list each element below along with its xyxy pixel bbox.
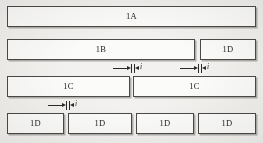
block-label: 1D — [160, 119, 171, 128]
block-1d: 1D — [7, 113, 64, 134]
extension-tick-left — [131, 64, 132, 73]
block-label: 1C — [189, 82, 199, 91]
dimension-leader-left — [180, 68, 194, 69]
block-1d: 1D — [198, 113, 256, 134]
dimension-label: i — [140, 62, 142, 71]
block-1c: 1C — [7, 76, 130, 97]
technical-block-diagram: 1A1B1D1C1C1D1D1D1Diii — [0, 0, 263, 143]
gap-dimension-1c-1c: i — [113, 64, 153, 73]
block-label: 1D — [95, 119, 106, 128]
extension-tick-left — [198, 64, 199, 73]
block-label: 1C — [63, 82, 73, 91]
dimension-label: i — [207, 62, 209, 71]
arrowhead-left-icon — [70, 103, 74, 107]
gap-dimension-1b-1d: i — [180, 64, 220, 73]
dimension-leader-left — [113, 68, 127, 69]
block-1d: 1D — [200, 39, 256, 60]
arrowhead-left-icon — [135, 66, 139, 70]
block-1b: 1B — [7, 39, 195, 60]
block-label: 1D — [222, 119, 233, 128]
block-1d: 1D — [136, 113, 194, 134]
block-label: 1D — [223, 45, 234, 54]
block-1d: 1D — [68, 113, 132, 134]
dimension-label: i — [75, 99, 77, 108]
dimension-leader-left — [48, 105, 62, 106]
extension-tick-left — [66, 101, 67, 110]
block-1c: 1C — [133, 76, 256, 97]
block-1a: 1A — [7, 6, 256, 27]
arrowhead-left-icon — [202, 66, 206, 70]
block-label: 1D — [30, 119, 41, 128]
block-label: 1A — [126, 12, 137, 21]
block-label: 1B — [96, 45, 106, 54]
gap-dimension-1d-1d: i — [48, 101, 88, 110]
